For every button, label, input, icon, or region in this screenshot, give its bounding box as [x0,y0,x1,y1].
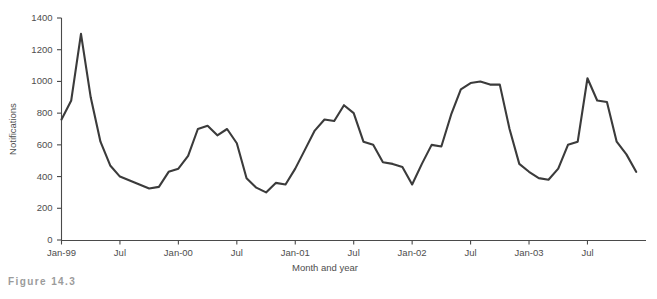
x-axis: Jan-99JulJan-00JulJan-01JulJan-02JulJan-… [47,240,646,258]
x-tick-label: Jul [581,247,593,258]
y-tick-label: 600 [37,139,53,150]
y-axis-title: Notifications [7,103,18,155]
y-tick-labels: 0200400600800100012001400 [31,12,52,245]
x-tick-label: Jan-99 [47,247,76,258]
line-chart: 0200400600800100012001400 Jan-99JulJan-0… [0,0,657,299]
y-tick-label: 1400 [31,12,52,23]
x-axis-title: Month and year [292,262,358,273]
figure-caption: Figure 14.3 [8,276,76,287]
x-tick-label: Jul [465,247,477,258]
y-tick-label: 800 [37,107,53,118]
y-axis: 0200400600800100012001400 [31,12,61,245]
figure-container: 0200400600800100012001400 Jan-99JulJan-0… [0,0,657,299]
y-tick-marks [57,18,62,240]
x-tick-label: Jan-00 [164,247,193,258]
y-tick-label: 1200 [31,44,52,55]
y-tick-label: 400 [37,171,53,182]
x-tick-label: Jul [231,247,243,258]
y-tick-label: 1000 [31,75,52,86]
x-tick-label: Jul [348,247,360,258]
x-tick-label: Jul [114,247,126,258]
x-tick-label: Jan-01 [281,247,310,258]
data-series-line [62,34,637,193]
y-tick-label: 0 [47,234,52,245]
x-tick-label: Jan-03 [514,247,543,258]
x-tick-labels: Jan-99JulJan-00JulJan-01JulJan-02JulJan-… [47,247,594,258]
x-tick-label: Jan-02 [398,247,427,258]
y-tick-label: 200 [37,202,53,213]
